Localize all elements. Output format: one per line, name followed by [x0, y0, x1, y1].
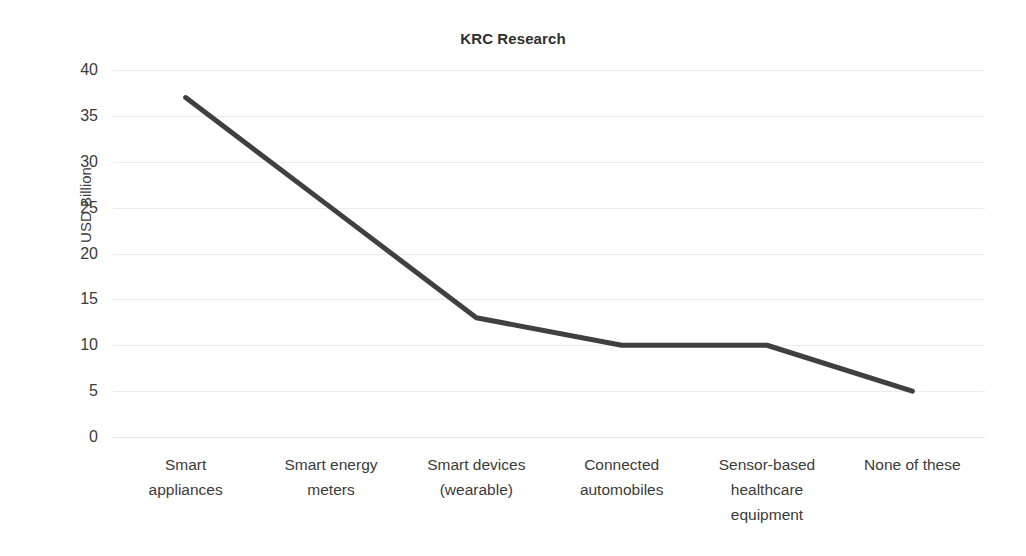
x-tick-label-line: appliances	[113, 477, 258, 502]
x-tick-label-line: Smart	[113, 452, 258, 477]
y-tick-label: 35	[52, 108, 98, 124]
x-tick-label: Smart devices(wearable)	[404, 452, 549, 502]
x-tick-label-line: meters	[258, 477, 403, 502]
y-tick-label: 0	[52, 429, 98, 445]
x-tick-label-line: Sensor-based	[694, 452, 839, 477]
y-tick-label: 40	[52, 62, 98, 78]
line-series	[113, 70, 985, 437]
y-tick-label: 25	[52, 200, 98, 216]
x-axis-tick-labels: SmartappliancesSmart energymetersSmart d…	[113, 452, 985, 547]
x-tick-label: Sensor-basedhealthcareequipment	[694, 452, 839, 527]
y-tick-label: 20	[52, 246, 98, 262]
x-tick-label: Smart energymeters	[258, 452, 403, 502]
x-tick-label-line: equipment	[694, 502, 839, 527]
x-tick-label-line: automobiles	[549, 477, 694, 502]
x-tick-label-line: Connected	[549, 452, 694, 477]
y-axis-tick-labels: 4035302520151050	[52, 70, 98, 437]
y-tick-label: 5	[52, 383, 98, 399]
x-tick-label-line: Smart energy	[258, 452, 403, 477]
x-tick-label: Smartappliances	[113, 452, 258, 502]
y-tick-label: 15	[52, 291, 98, 307]
x-tick-label-line: (wearable)	[404, 477, 549, 502]
chart-title: KRC Research	[0, 30, 1026, 47]
x-tick-label-line: healthcare	[694, 477, 839, 502]
x-tick-label: None of these	[840, 452, 985, 477]
y-tick-label: 10	[52, 337, 98, 353]
y-tick-label: 30	[52, 154, 98, 170]
x-tick-label-line: Smart devices	[404, 452, 549, 477]
plot-area	[113, 70, 985, 437]
x-tick-label: Connectedautomobiles	[549, 452, 694, 502]
series-line	[186, 98, 913, 392]
chart-container: KRC Research USD Billion 403530252015105…	[0, 0, 1026, 556]
gridline	[113, 437, 985, 438]
x-tick-label-line: None of these	[840, 452, 985, 477]
